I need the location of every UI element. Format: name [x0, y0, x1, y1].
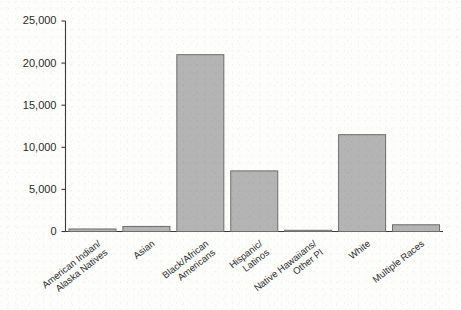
x-tick-label-group: White — [346, 238, 372, 262]
bar — [123, 226, 170, 231]
y-tick-label: 10,000 — [23, 141, 57, 153]
y-tick-label: 25,000 — [23, 14, 57, 26]
bar — [69, 229, 116, 232]
y-axis-ticks — [62, 21, 66, 232]
bar-chart-figure: 05,00010,00015,00020,00025,000 American … — [0, 0, 461, 310]
x-tick-label-group: Multiple Races — [370, 238, 426, 285]
y-tick-label: 5,000 — [29, 183, 57, 195]
x-tick-label-group: Black/AfricanAmericans — [160, 238, 217, 290]
chart-canvas: 05,00010,00015,00020,00025,000 American … — [0, 0, 461, 310]
bar — [339, 135, 386, 232]
x-tick-label-line: Asian — [131, 238, 156, 261]
y-axis-tick-labels: 05,00010,00015,00020,00025,000 — [23, 14, 57, 237]
y-axis: 05,00010,00015,00020,00025,000 — [23, 14, 66, 237]
bar — [177, 55, 224, 232]
y-tick-label: 0 — [50, 225, 56, 237]
x-axis-tick-labels: American Indian/Alaska NativesAsianBlack… — [40, 237, 427, 301]
x-tick-label-line: White — [346, 238, 372, 262]
x-tick-label-line: Multiple Races — [370, 238, 426, 285]
y-tick-label: 20,000 — [23, 57, 57, 69]
bar — [285, 230, 332, 231]
x-tick-label-group: Hispanic/Latinos — [227, 237, 272, 279]
x-tick-label-group: Asian — [131, 238, 156, 261]
bar — [231, 171, 278, 232]
bars-series — [69, 55, 440, 232]
y-tick-label: 15,000 — [23, 99, 57, 111]
x-tick-label-group: American Indian/Alaska Natives — [40, 237, 110, 298]
bar — [393, 225, 440, 232]
